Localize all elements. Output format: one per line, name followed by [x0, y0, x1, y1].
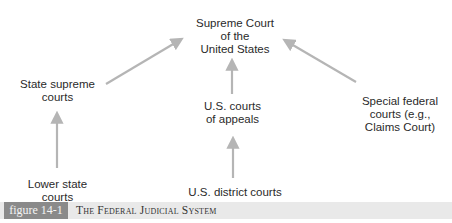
figure-label: figure 14-1	[4, 202, 68, 219]
node-us-courts-of-appeals: U.S. courts of appeals	[190, 100, 275, 126]
node-us-district-courts: U.S. district courts	[180, 186, 290, 199]
node-lower-state-courts: Lower state courts	[15, 178, 100, 204]
arrow-special-to-supreme	[286, 41, 356, 82]
node-supreme-court: Supreme Court of the United States	[180, 17, 290, 56]
arrow-state-to-supreme	[106, 40, 180, 84]
node-state-supreme-courts: State supreme courts	[10, 78, 105, 104]
node-special-federal-courts: Special federal courts (e.g., Claims Cou…	[350, 95, 450, 134]
figure-title: The Federal Judicial System	[76, 202, 217, 219]
